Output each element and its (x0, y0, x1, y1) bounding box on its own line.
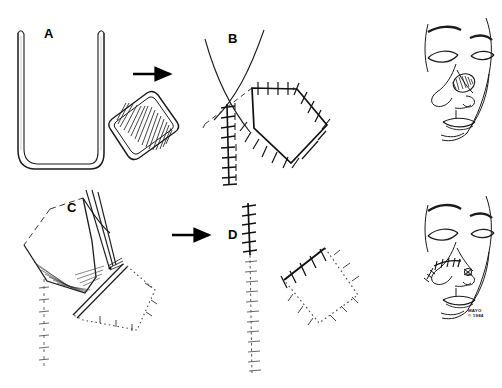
panel-a-donor-template (18, 31, 104, 169)
face-top-illustration (425, 18, 494, 141)
panel-d-donor-suture-line (242, 203, 261, 375)
panel-b-donor-suture-line (221, 103, 237, 185)
illustration-canvas (0, 0, 502, 388)
panel-label-d: D (228, 228, 237, 241)
mayo-copyright-watermark: MAYO © 1984 (468, 308, 483, 318)
panel-d-inset-graft (281, 248, 359, 325)
surgical-illustration-figure: A B C D MAYO © 1984 (0, 0, 502, 388)
panel-label-a: A (44, 27, 53, 40)
watermark-line-year: © 1984 (468, 313, 483, 318)
panel-b-rhomboid-graft-sutured (203, 82, 330, 168)
face-bottom-illustration (424, 196, 494, 319)
panel-label-b: B (228, 32, 237, 45)
panel-a-hatched-graft (109, 91, 179, 159)
panel-label-c: C (67, 201, 76, 214)
panel-c-flap-transposition (24, 190, 157, 368)
